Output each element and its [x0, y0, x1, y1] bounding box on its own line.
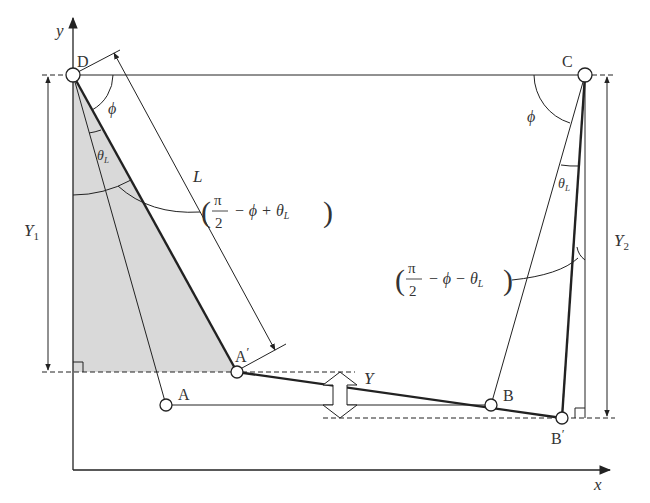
svg-text:(: ( [201, 195, 211, 229]
linkage-diagram: y x D C A B A′ B′ L Y Y1 Y2 ϕ ϕ θL θL ( … [0, 0, 650, 503]
label-B: B [503, 387, 514, 404]
label-phi-right: ϕ [527, 108, 535, 126]
phi-arc-right [534, 75, 570, 123]
link-CBprime [562, 75, 585, 418]
right-angle-right [575, 408, 585, 418]
label-phi-left: ϕ [108, 100, 116, 118]
svg-text:2: 2 [215, 215, 223, 231]
theta-arc-right [561, 165, 579, 166]
svg-text:− ϕ + θL: − ϕ + θL [234, 202, 290, 221]
joint-C [578, 68, 592, 82]
leader-right [512, 258, 578, 280]
joint-Bprime [556, 412, 568, 424]
right-angle-expression: ( π 2 − ϕ − θL ) [395, 260, 513, 299]
label-C: C [562, 53, 573, 70]
svg-text:π: π [214, 192, 222, 208]
label-Aprime: A′ [235, 344, 250, 365]
label-Y1: Y1 [24, 221, 39, 242]
label-D: D [77, 53, 89, 70]
joint-Aprime [231, 366, 243, 378]
joint-B [485, 399, 497, 411]
label-theta-right: θL [558, 176, 570, 193]
Y-double-arrow [323, 372, 357, 418]
small-arc-right [577, 247, 585, 260]
svg-text:2: 2 [409, 283, 417, 299]
y-axis-label: y [54, 21, 64, 40]
label-Y: Y [364, 369, 375, 388]
svg-text:): ) [503, 263, 513, 297]
joint-A [160, 399, 172, 411]
left-angle-expression: ( π 2 − ϕ + θL ) [201, 192, 333, 231]
svg-text:(: ( [395, 263, 405, 297]
x-axis-label: x [593, 475, 602, 494]
label-L: L [192, 167, 202, 186]
svg-text:): ) [323, 195, 333, 229]
link-CB [491, 75, 585, 405]
label-A: A [178, 386, 190, 403]
label-Bprime: B′ [551, 426, 565, 447]
joint-D [66, 68, 80, 82]
svg-text:− ϕ − θL: − ϕ − θL [428, 270, 484, 289]
label-Y2: Y2 [614, 231, 629, 252]
svg-text:π: π [408, 260, 416, 276]
